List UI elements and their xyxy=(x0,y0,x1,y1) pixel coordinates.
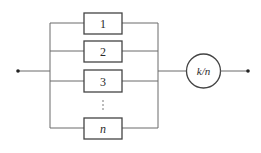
voter-kofn: k/n xyxy=(187,54,221,88)
branch-3: 3 xyxy=(50,70,158,92)
component-label-1: 1 xyxy=(100,17,106,31)
parallel-kofn-diagram: 1 2 3 n xyxy=(0,0,261,153)
branch-1: 1 xyxy=(50,13,158,34)
branch-n: n xyxy=(50,118,158,139)
component-label-3: 3 xyxy=(100,75,106,89)
component-label-n: n xyxy=(100,122,106,136)
ellipsis-dots xyxy=(102,100,104,110)
voter-label: k/n xyxy=(197,65,211,77)
output-terminal-node xyxy=(246,69,250,73)
component-label-2: 2 xyxy=(100,45,106,59)
input-terminal-node xyxy=(16,69,20,73)
branch-2: 2 xyxy=(50,41,158,62)
